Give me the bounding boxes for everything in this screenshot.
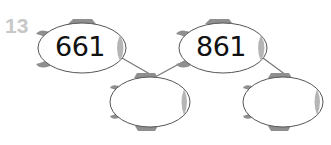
fish-value-top-right: 861 [181,31,261,62]
fish-bottom-right [243,73,323,131]
fish-value-top-left: 661 [40,31,120,62]
fish-bottom-left [110,73,190,131]
fish-diagram [0,0,331,145]
